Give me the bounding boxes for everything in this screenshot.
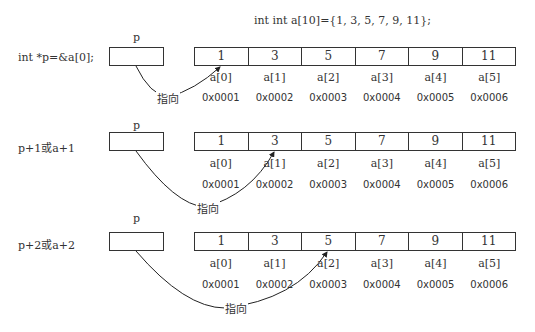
points-to-label: 指向	[224, 300, 248, 316]
points-to-label: 指向	[156, 90, 180, 106]
points-to-label: 指向	[196, 200, 220, 216]
pointer-arrows	[0, 0, 535, 332]
